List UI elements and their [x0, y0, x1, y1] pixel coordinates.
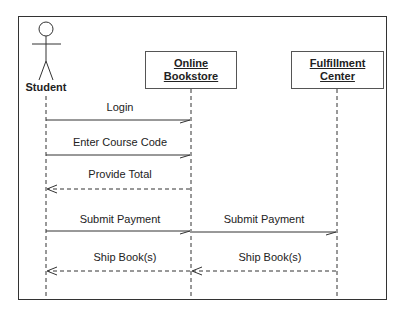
message-label: Submit Payment [224, 213, 305, 225]
message-label: Ship Book(s) [94, 251, 157, 263]
actor-icon [32, 22, 61, 80]
object-label: Bookstore [164, 70, 218, 83]
message-label: Enter Course Code [73, 136, 167, 148]
actor-student-label: Student [26, 81, 67, 93]
message-label: Login [107, 101, 134, 113]
message-label: Provide Total [88, 168, 151, 180]
object-label: Online [174, 57, 208, 70]
object-fulfillment-center: Fulfillment Center [291, 51, 384, 89]
object-label: Center [320, 70, 355, 83]
object-online-bookstore: Online Bookstore [145, 51, 237, 89]
message-label: Submit Payment [80, 213, 161, 225]
object-label: Fulfillment [310, 57, 366, 70]
sequence-lines [0, 0, 405, 319]
message-label: Ship Book(s) [239, 251, 302, 263]
